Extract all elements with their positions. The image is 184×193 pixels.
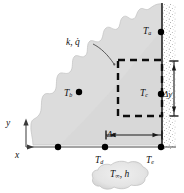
delta-x-label: Δx xyxy=(107,130,116,139)
node-point-unlabeled xyxy=(55,144,61,150)
node-point-a xyxy=(158,29,164,35)
fluid-conditions-label: T∞, h xyxy=(110,170,129,180)
node-label-c: Tc xyxy=(140,89,148,99)
node-point-b xyxy=(76,89,82,95)
y-axis-arrowhead xyxy=(23,119,28,126)
figure-container: k, q̇ Ta Tb Tc Td Te Δy Δx x y T∞, h xyxy=(0,0,184,193)
node-label-a: Ta xyxy=(143,27,151,37)
material-label-leader-dot xyxy=(113,63,115,65)
node-label-e: Te xyxy=(146,156,154,166)
node-point-e xyxy=(158,144,164,150)
delta-y-label: Δy xyxy=(163,90,172,99)
node-point-d xyxy=(102,144,108,150)
node-label-d: Td xyxy=(95,156,103,166)
x-axis-label: x xyxy=(15,151,19,161)
material-properties-label: k, q̇ xyxy=(66,38,80,48)
figure-canvas xyxy=(0,0,184,193)
y-axis-label: y xyxy=(6,119,10,129)
node-label-b: Tb xyxy=(64,89,72,99)
